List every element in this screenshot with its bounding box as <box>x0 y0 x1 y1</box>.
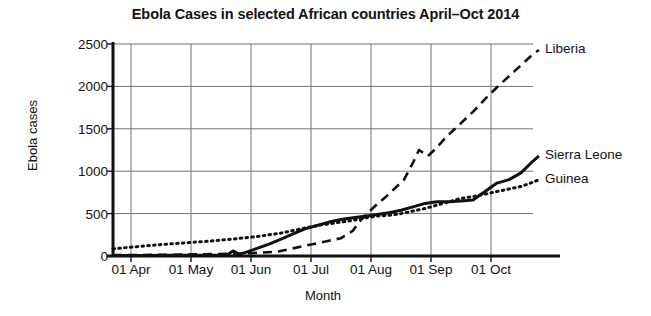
x-tick-label: 01 Apr <box>111 262 150 277</box>
y-tick-label: 2500 <box>62 37 108 52</box>
legend-label-liberia: Liberia <box>545 41 586 56</box>
y-axis-tick-labels: 05001000150020002500 <box>58 0 108 316</box>
ebola-cases-line-chart: Ebola Cases in selected African countrie… <box>0 0 651 316</box>
legend-label-sierra-leone: Sierra Leone <box>545 147 622 162</box>
y-tick-label: 0 <box>62 249 108 264</box>
x-tick-label: 01 Jun <box>231 262 272 277</box>
x-axis-label: Month <box>113 288 533 303</box>
series-lines <box>113 50 539 256</box>
x-tick-label: 01 Oct <box>471 262 511 277</box>
y-axis-label: Ebola cases <box>25 76 40 196</box>
gridlines <box>107 44 533 262</box>
x-tick-label: 01 Aug <box>350 262 392 277</box>
y-tick-label: 2000 <box>62 79 108 94</box>
x-tick-label: 01 Sep <box>410 262 453 277</box>
y-tick-label: 1500 <box>62 121 108 136</box>
y-tick-label: 1000 <box>62 164 108 179</box>
legend-label-guinea: Guinea <box>545 171 589 186</box>
x-tick-label: 01 May <box>169 262 213 277</box>
series-line-guinea <box>113 180 539 249</box>
y-tick-label: 500 <box>62 206 108 221</box>
x-tick-label: 01 Jul <box>293 262 329 277</box>
